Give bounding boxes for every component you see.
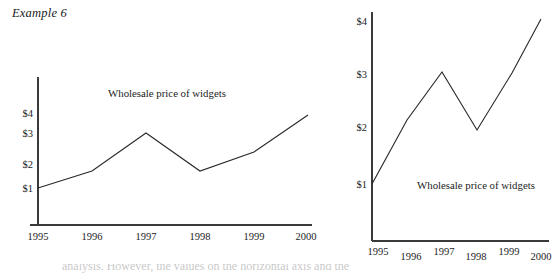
example-label: Example 6: [12, 6, 67, 21]
x-tick-label-tall-1996: 1996: [401, 251, 422, 262]
x-tick-label-wide-1997: 1997: [136, 231, 157, 242]
y-tick-label-wide-1: $1: [23, 183, 34, 194]
x-tick-label-tall-1997: 1997: [434, 246, 455, 257]
chart-wide: $4 $3 $2 $1 1995 1996 1997 1998 1999 200…: [0, 55, 320, 275]
series-label-tall: Wholesale price of widgets: [417, 179, 535, 191]
bottom-cropped-text: analysis. However, the values on the hor…: [62, 264, 349, 274]
x-tick-label-tall-1999: 1999: [499, 246, 520, 257]
bottom-cropped-text-strip: analysis. However, the values on the hor…: [0, 264, 555, 275]
y-tick-label-wide-4: $4: [23, 108, 34, 119]
data-line-tall: [372, 19, 541, 184]
x-tick-label-tall-1998: 1998: [466, 251, 487, 262]
x-tick-label-wide-1999: 1999: [244, 231, 265, 242]
x-tick-label-tall-2000: 2000: [531, 251, 552, 262]
data-line-wide: [38, 115, 308, 188]
chart-tall: $4 $3 $2 $1 1995 1996 1997 1998 1999 200…: [330, 0, 555, 275]
x-tick-label-wide-1995: 1995: [28, 231, 49, 242]
y-tick-label-wide-2: $2: [23, 159, 34, 170]
x-tick-label-tall-1995: 1995: [368, 246, 389, 257]
y-tick-label-tall-4: $4: [357, 16, 368, 27]
y-tick-label-tall-3: $3: [357, 69, 368, 80]
x-tick-label-wide-1996: 1996: [82, 231, 103, 242]
series-label-wide: Wholesale price of widgets: [108, 87, 226, 99]
x-tick-label-wide-1998: 1998: [190, 231, 211, 242]
y-tick-label-tall-2: $2: [357, 122, 368, 133]
y-tick-label-tall-1: $1: [357, 179, 368, 190]
x-tick-label-wide-2000: 2000: [296, 231, 317, 242]
y-tick-label-wide-3: $3: [23, 128, 34, 139]
